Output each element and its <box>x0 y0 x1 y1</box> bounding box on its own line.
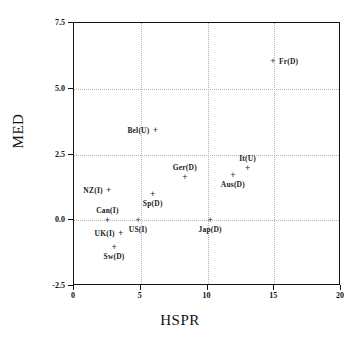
data-point-label: Fr(D) <box>279 57 298 66</box>
y-axis-tick-label: -2.5 <box>52 281 65 290</box>
plot-area: +Fr(D)+Bel(U)+It(U)+Aus(D)+Ger(D)+NZ(I)+… <box>73 22 340 285</box>
data-point-label: UK(I) <box>95 229 115 238</box>
plus-marker-icon: + <box>111 242 116 251</box>
y-axis-tick-label: 7.5 <box>55 18 65 27</box>
plus-marker-icon: + <box>230 171 235 180</box>
gridline-vertical <box>141 23 142 284</box>
data-point-label: US(I) <box>129 225 148 234</box>
x-axis-tick <box>273 285 274 290</box>
y-axis-tick <box>68 154 73 155</box>
y-axis-title: MED <box>10 114 27 149</box>
y-axis-tick <box>68 22 73 23</box>
y-axis-tick-label: 5.0 <box>55 83 65 92</box>
x-axis-tick <box>340 285 341 290</box>
y-axis-tick <box>68 88 73 89</box>
gridline-horizontal <box>74 155 339 156</box>
x-axis-tick-label: 20 <box>336 291 344 300</box>
y-axis-tick-label: 0.0 <box>55 215 65 224</box>
plus-marker-icon: + <box>245 163 250 172</box>
y-axis-tick <box>68 219 73 220</box>
data-point-label: It(U) <box>239 154 256 163</box>
plus-marker-icon: + <box>135 216 140 225</box>
plus-marker-icon: + <box>118 229 123 238</box>
data-point-label: Sw(D) <box>104 252 125 261</box>
x-axis-title: HSPR <box>0 312 360 329</box>
x-axis-tick <box>140 285 141 290</box>
gridline-horizontal <box>74 220 339 221</box>
plus-marker-icon: + <box>208 216 213 225</box>
plus-marker-icon: + <box>150 189 155 198</box>
y-axis-tick-label: 2.5 <box>55 149 65 158</box>
plus-marker-icon: + <box>106 186 111 195</box>
data-point-label: Sp(D) <box>143 199 163 208</box>
data-point-label: Ger(D) <box>173 163 197 172</box>
gridline-vertical <box>208 23 209 284</box>
scatter-plot-figure: +Fr(D)+Bel(U)+It(U)+Aus(D)+Ger(D)+NZ(I)+… <box>0 0 360 341</box>
x-axis-tick-label: 10 <box>203 291 211 300</box>
plus-marker-icon: + <box>105 216 110 225</box>
data-point-label: NZ(I) <box>83 186 102 195</box>
x-axis-tick-label: 0 <box>71 291 75 300</box>
plus-marker-icon: + <box>153 125 158 134</box>
data-point-label: Can(I) <box>96 206 118 215</box>
x-axis-tick <box>73 285 74 290</box>
x-axis-tick-label: 5 <box>138 291 142 300</box>
data-point-label: Bel(U) <box>127 125 149 134</box>
data-point-label: Aus(D) <box>221 180 245 189</box>
x-axis-tick <box>207 285 208 290</box>
plus-marker-icon: + <box>270 57 275 66</box>
plus-marker-icon: + <box>182 172 187 181</box>
x-axis-tick-label: 15 <box>269 291 277 300</box>
data-point-label: Jap(D) <box>199 225 222 234</box>
y-axis-tick <box>68 285 73 286</box>
gridline-horizontal <box>74 89 339 90</box>
